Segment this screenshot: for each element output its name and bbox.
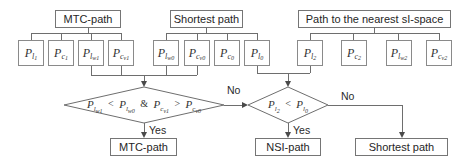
param-subsub: v1 bbox=[124, 55, 130, 61]
no-label-decision-2: No bbox=[341, 90, 354, 102]
result-box-shortest-path: Shortest path bbox=[355, 138, 448, 156]
param-symbol: P bbox=[391, 46, 398, 61]
param-shortest-1: Plw0 bbox=[153, 40, 179, 66]
term: Pl0 bbox=[296, 94, 308, 111]
greater-than-operator: > bbox=[175, 98, 181, 109]
arrow-into-decision-2 bbox=[285, 81, 291, 87]
param-symbol: P bbox=[304, 46, 311, 61]
decision-1-condition: Plw1 < Plw0 & Pcv1 > Pcv0 bbox=[64, 97, 224, 112]
param-shortest-2: Pcv0 bbox=[184, 40, 210, 66]
result-box-mtc-path: MTC-path bbox=[110, 138, 177, 156]
param-mtc-3: Plw1 bbox=[78, 40, 104, 66]
less-than-operator: < bbox=[108, 98, 114, 109]
and-operator: & bbox=[140, 98, 148, 109]
term: Pl2 bbox=[268, 94, 280, 111]
param-subsub: v0 bbox=[200, 55, 206, 61]
param-symbol: P bbox=[431, 46, 438, 61]
param-subsub: 0 bbox=[260, 55, 263, 61]
term: Plw1 bbox=[87, 94, 103, 111]
param-shortest-4: Pl0 bbox=[244, 40, 270, 66]
param-symbol: P bbox=[251, 46, 258, 61]
param-nearest-2: Pc2 bbox=[341, 40, 367, 66]
source-box-mtc-path: MTC-path bbox=[55, 10, 121, 28]
param-subsub: w2 bbox=[400, 55, 407, 61]
term: Plw0 bbox=[119, 94, 135, 111]
yes-label-decision-1: Yes bbox=[149, 124, 166, 136]
source-box-mtc-path-label: MTC-path bbox=[64, 13, 113, 25]
param-subsub: 2 bbox=[358, 55, 361, 61]
param-subsub: 2 bbox=[313, 55, 316, 61]
param-symbol: P bbox=[25, 46, 32, 61]
param-nearest-1: Pl2 bbox=[297, 40, 323, 66]
param-subsub: v2 bbox=[442, 55, 448, 61]
param-symbol: P bbox=[220, 46, 227, 61]
flowchart-canvas: MTC-path Shortest path Path to the neare… bbox=[0, 0, 465, 165]
param-subsub: w0 bbox=[167, 55, 174, 61]
param-symbol: P bbox=[113, 46, 120, 61]
param-subsub: 0 bbox=[231, 55, 234, 61]
source-box-nearest-si-space-label: Path to the nearest sI-space bbox=[306, 13, 444, 25]
param-subsub: w1 bbox=[92, 55, 99, 61]
source-box-shortest-path: Shortest path bbox=[170, 10, 243, 28]
result-box-nsi-path: NSI-path bbox=[255, 138, 321, 156]
param-mtc-1: Pl1 bbox=[18, 40, 44, 66]
decision-2-condition: Pl2 < Pl0 bbox=[248, 97, 328, 112]
param-symbol: P bbox=[158, 46, 165, 61]
arrow-into-decision-1 bbox=[141, 81, 147, 87]
no-label-decision-1: No bbox=[227, 84, 240, 96]
term: Pcv1 bbox=[154, 94, 170, 111]
param-symbol: P bbox=[189, 46, 196, 61]
param-subsub: 1 bbox=[65, 55, 68, 61]
param-nearest-4: Pcv2 bbox=[426, 40, 452, 66]
param-mtc-4: Pcv1 bbox=[108, 40, 134, 66]
param-symbol: P bbox=[54, 46, 61, 61]
less-than-operator: < bbox=[285, 98, 291, 109]
source-box-shortest-path-label: Shortest path bbox=[174, 13, 239, 25]
source-box-nearest-si-space: Path to the nearest sI-space bbox=[298, 10, 451, 28]
param-shortest-3: Pc0 bbox=[214, 40, 240, 66]
param-mtc-2: Pc1 bbox=[48, 40, 74, 66]
term: Pcv0 bbox=[186, 94, 202, 111]
result-box-mtc-path-label: MTC-path bbox=[119, 141, 168, 153]
result-box-nsi-path-label: NSI-path bbox=[266, 141, 309, 153]
yes-label-decision-2: Yes bbox=[293, 124, 310, 136]
param-nearest-3: Plw2 bbox=[386, 40, 412, 66]
param-symbol: P bbox=[347, 46, 354, 61]
param-subsub: 1 bbox=[34, 55, 37, 61]
param-symbol: P bbox=[83, 46, 90, 61]
result-box-shortest-path-label: Shortest path bbox=[369, 141, 434, 153]
